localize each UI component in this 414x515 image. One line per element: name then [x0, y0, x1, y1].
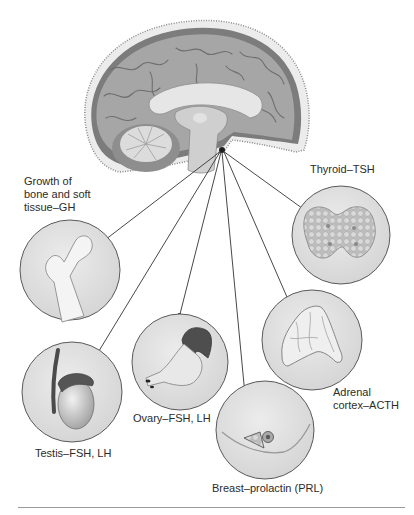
label-adrenal-acth: Adrenal cortex–ACTH: [333, 386, 399, 412]
adrenal-circle: [262, 290, 362, 390]
breast-circle: [216, 381, 314, 479]
arrow-to-thyroid: [223, 151, 306, 211]
label-breast-prl: Breast–prolactin (PRL): [212, 482, 323, 495]
pituitary-target-diagram: [0, 0, 414, 515]
label-thyroid-tsh: Thyroid–TSH: [310, 163, 375, 176]
bone-circle: [20, 220, 120, 322]
testis-circle: [22, 342, 122, 442]
thyroid-circle: [292, 186, 390, 284]
label-ovary-fsh-lh: Ovary–FSH, LH: [133, 412, 211, 425]
label-testis-fsh-lh: Testis–FSH, LH: [35, 447, 111, 460]
brain-sagittal-section: [85, 20, 309, 173]
label-bone-gh: Growth of bone and soft tissue–GH: [24, 175, 91, 214]
caption-divider: [18, 507, 405, 508]
arrow-to-ovary: [179, 152, 221, 318]
ovary-circle: [132, 314, 228, 410]
